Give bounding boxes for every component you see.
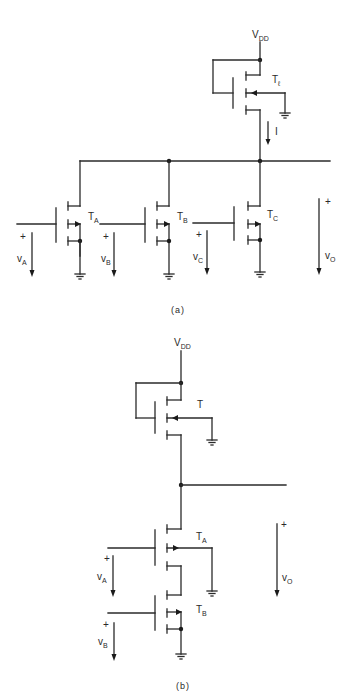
- load-transistor-b: [136, 351, 217, 485]
- transistor-tb-b: [108, 596, 186, 659]
- transistor-tb-a: [100, 161, 174, 279]
- vdd-label-b: VDD: [174, 337, 191, 350]
- figure-b: VDD T: [97, 337, 293, 691]
- input-vc-plus-a: +: [196, 229, 202, 240]
- output-vo-a: [317, 199, 322, 275]
- input-va-plus-a: +: [20, 231, 26, 242]
- input-vb-a: [112, 233, 117, 277]
- vdd-label-a: VDD: [252, 29, 269, 42]
- input-va-b: [111, 556, 116, 597]
- input-va-label-a: vA: [17, 253, 27, 266]
- transistor-tc-a: [193, 161, 265, 277]
- input-va-label-b: vA: [97, 571, 107, 584]
- transistor-label-tb-a: TB: [177, 211, 188, 224]
- input-vb-label-b: vB: [98, 636, 108, 649]
- caption-a: (a): [171, 305, 185, 315]
- caption-b: (b): [176, 681, 190, 691]
- output-vo-plus-a: +: [325, 196, 331, 207]
- output-vo-label-b: vO: [282, 572, 293, 585]
- input-vb-b: [112, 623, 117, 661]
- transistor-label-ta-a: TA: [88, 211, 99, 224]
- transistor-label-ta-b: TA: [196, 531, 207, 544]
- current-label: I: [275, 126, 278, 137]
- output-vo-plus-b: +: [281, 519, 287, 530]
- transistor-ta-a: [17, 161, 85, 279]
- load-transistor-label-b: T: [197, 399, 203, 410]
- input-vb-label-a: vB: [101, 253, 111, 266]
- load-transistor-a: [213, 42, 290, 161]
- load-transistor-label-a: Tℓ: [272, 74, 281, 87]
- figure-a: VDD T: [17, 29, 336, 315]
- output-vo-label-a: vO: [325, 250, 336, 263]
- input-va-plus-b: +: [104, 553, 110, 564]
- input-vb-plus-a: +: [103, 231, 109, 242]
- output-vo-b: [275, 524, 280, 597]
- circuit-figure: VDD T: [0, 0, 343, 699]
- transistor-ta-b: [108, 485, 217, 599]
- transistor-label-tb-b: TB: [196, 604, 207, 617]
- current-arrow: [266, 122, 271, 145]
- input-vc-a: [205, 231, 210, 275]
- input-va-a: [30, 233, 35, 277]
- transistor-label-tc-a: TC: [267, 209, 278, 222]
- input-vb-plus-b: +: [103, 619, 109, 630]
- input-vc-label-a: vC: [193, 251, 203, 264]
